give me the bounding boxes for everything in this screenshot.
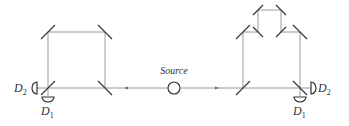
interferometer-diagram: Source D2 D1 D2 D1 bbox=[0, 0, 349, 126]
label-d2-left: D2 bbox=[13, 81, 27, 97]
label-d2-right: D2 bbox=[317, 81, 331, 97]
source-icon bbox=[168, 82, 180, 94]
detector-d2-right bbox=[311, 82, 316, 94]
left-interferometer bbox=[32, 25, 168, 102]
detector-d1-right bbox=[294, 97, 306, 102]
label-d1-right: D1 bbox=[292, 104, 306, 120]
source-label: Source bbox=[160, 65, 188, 76]
source: Source bbox=[160, 65, 188, 94]
detector-d2-left bbox=[32, 82, 37, 94]
arrow-left-icon bbox=[124, 87, 128, 90]
label-d1-left: D1 bbox=[40, 104, 54, 120]
detector-d1-left bbox=[42, 97, 54, 102]
right-interferometer bbox=[180, 5, 316, 102]
arrow-right-icon bbox=[215, 87, 219, 90]
